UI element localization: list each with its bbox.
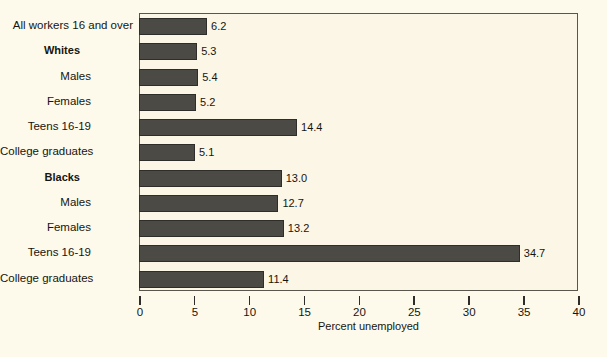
bar (139, 43, 197, 60)
bar-value-label: 13.0 (286, 169, 307, 187)
category-label: Females (0, 215, 133, 240)
bar-value-label: 6.2 (211, 17, 226, 35)
bar (139, 18, 207, 35)
bar-row: 13.0 (139, 165, 578, 190)
category-label: College graduates (0, 139, 133, 164)
bar (139, 271, 264, 288)
category-label: Teens 16-19 (0, 240, 133, 265)
x-axis-tick (578, 296, 580, 305)
bar-row: 34.7 (139, 240, 578, 265)
bar-value-label: 5.2 (200, 93, 215, 111)
category-label: Whites (0, 38, 133, 63)
x-axis-tick-label: 10 (243, 306, 256, 318)
bar (139, 245, 520, 262)
bar (139, 220, 284, 237)
x-axis-tick (139, 296, 141, 305)
bar-row: 12.7 (139, 190, 578, 215)
bar-row: 11.4 (139, 266, 578, 291)
x-axis-tick (194, 296, 196, 305)
bar-value-label: 34.7 (524, 244, 545, 262)
bar (139, 144, 195, 161)
bar-row: 13.2 (139, 215, 578, 240)
bar-value-label: 14.4 (301, 118, 322, 136)
category-label: Females (0, 89, 133, 114)
category-label: College graduates (0, 266, 133, 291)
x-axis-tick (523, 296, 525, 305)
x-axis-tick-label: 15 (298, 306, 311, 318)
unemployment-bar-chart: All workers 16 and overWhitesMalesFemale… (0, 0, 607, 357)
x-axis-tick (304, 296, 306, 305)
x-axis-tick-label: 40 (573, 306, 586, 318)
x-axis-tick (359, 296, 361, 305)
bar-row: 5.2 (139, 89, 578, 114)
category-label: Blacks (0, 165, 133, 190)
bar-value-label: 5.1 (199, 143, 214, 161)
bar-row: 5.3 (139, 38, 578, 63)
x-axis-tick (249, 296, 251, 305)
bar-value-label: 12.7 (282, 194, 303, 212)
category-label: Males (0, 64, 133, 89)
x-axis-tick (468, 296, 470, 305)
x-axis-tick (413, 296, 415, 305)
bar (139, 195, 278, 212)
x-axis-tick-label: 5 (192, 306, 198, 318)
x-axis-tick-label: 25 (408, 306, 421, 318)
bar-value-label: 5.4 (202, 68, 217, 86)
bar-row: 5.1 (139, 139, 578, 164)
bar-value-label: 5.3 (201, 42, 216, 60)
bar (139, 170, 282, 187)
bar-value-label: 11.4 (268, 270, 289, 288)
bar (139, 69, 198, 86)
bar-value-label: 13.2 (288, 219, 309, 237)
category-axis-labels: All workers 16 and overWhitesMalesFemale… (0, 13, 133, 291)
x-axis-tick-label: 20 (353, 306, 366, 318)
x-axis-tick-label: 30 (463, 306, 476, 318)
x-axis-tick-label: 0 (137, 306, 143, 318)
bar-series: 6.25.35.45.214.45.113.012.713.234.711.4 (139, 13, 578, 291)
category-label: Teens 16-19 (0, 114, 133, 139)
bar (139, 119, 297, 136)
bar-row: 5.4 (139, 64, 578, 89)
bar (139, 94, 196, 111)
x-axis-title: Percent unemployed (318, 320, 419, 332)
bar-row: 14.4 (139, 114, 578, 139)
category-label: Males (0, 190, 133, 215)
bar-row: 6.2 (139, 13, 578, 38)
category-label: All workers 16 and over (0, 13, 133, 38)
x-axis-tick-label: 35 (518, 306, 531, 318)
